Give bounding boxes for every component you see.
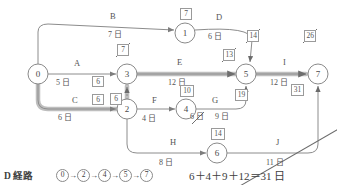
node-circles: [28, 23, 328, 163]
node-1-value-box: 7: [180, 8, 192, 20]
node-label-3: 3: [122, 70, 132, 79]
edge-H: [127, 119, 206, 153]
node-label-1: 1: [180, 29, 190, 38]
pert-network-diagram: 0 1 2 3 4 5 6 7 B 7 日 D 6 日 A 5 日 6 E 12…: [0, 0, 337, 185]
node-7-top-value-box-struck: 26: [304, 30, 316, 42]
footer-route-label: D 経路: [4, 168, 33, 182]
node-6-value-box: 14: [211, 128, 225, 140]
activity-label-D: D: [216, 13, 222, 22]
node-5-value-box: 19: [235, 89, 248, 101]
footer-summary: D 経路 0→2→4→5→7 6＋4＋9＋12＝31 日: [4, 167, 337, 183]
node-label-2: 2: [122, 105, 132, 114]
struck-box-slashes: [116, 29, 317, 124]
footer-node-0: 0: [56, 169, 69, 182]
node-5-left-value-box-struck: 13: [223, 49, 235, 61]
activity-duration-A: 5 日: [56, 79, 70, 87]
node-5-top-value-box-struck: 14: [247, 30, 259, 42]
node-4-value-box: 10: [180, 85, 194, 97]
activity-C-box-value: 6: [92, 94, 104, 105]
node-7-value-box: 31: [291, 84, 304, 96]
node-label-7: 7: [313, 70, 323, 79]
node-label-6: 6: [212, 149, 222, 158]
activity-duration-G-new: 9 日: [215, 113, 229, 121]
footer-route-path: 0→2→4→5→7: [56, 169, 153, 182]
node-2-value-box: 6: [110, 93, 122, 105]
footer-arrow-2: →: [90, 171, 98, 180]
activity-label-I: I: [283, 58, 286, 67]
activity-duration-D: 6 日: [208, 33, 222, 41]
footer-calculation: 6＋4＋9＋12＝31 日: [189, 167, 285, 183]
node-label-5: 5: [241, 70, 251, 79]
footer-arrow-3: →: [111, 171, 119, 180]
edges-group: [38, 24, 318, 153]
activity-label-H: H: [170, 138, 176, 147]
activity-label-B: B: [110, 12, 116, 21]
footer-arrow-1: →: [69, 171, 77, 180]
edge-B: [38, 24, 174, 64]
node-label-0: 0: [33, 70, 43, 79]
activity-label-J: J: [276, 138, 279, 147]
activity-duration-I: 12 日: [270, 79, 288, 87]
activity-duration-H: 8 日: [159, 159, 173, 167]
activity-duration-J: 11 日: [266, 159, 284, 167]
activity-label-C: C: [72, 96, 78, 105]
footer-node-4: 4: [98, 169, 111, 182]
footer-node-5: 5: [119, 169, 132, 182]
activity-label-E: E: [177, 58, 182, 67]
activity-duration-F: 4 日: [142, 115, 156, 123]
activity-A-box-value: 6: [92, 76, 104, 87]
activity-label-F: F: [152, 96, 157, 105]
footer-node-2: 2: [77, 169, 90, 182]
activity-duration-G-old: 6 日: [190, 113, 337, 121]
node-3-value-box-struck: 7: [117, 44, 129, 56]
activity-duration-C: 6 日: [58, 114, 72, 122]
activity-label-A: A: [74, 59, 80, 68]
activity-label-G: G: [212, 96, 218, 105]
footer-node-7: 7: [140, 169, 153, 182]
activity-duration-B: 7 日: [108, 31, 122, 39]
footer-arrow-4: →: [132, 171, 140, 180]
